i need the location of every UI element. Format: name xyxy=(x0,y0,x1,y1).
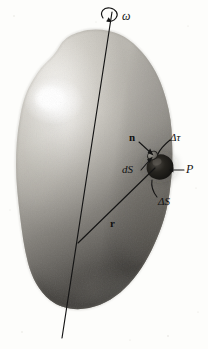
delta-S-label: ΔS xyxy=(158,196,170,207)
omega-label: ω xyxy=(122,10,130,22)
angular-velocity-curl-arrow xyxy=(102,8,118,22)
normal-vector-label: n xyxy=(129,132,135,143)
delta-tau-volume-element xyxy=(138,148,182,186)
position-vector-label: r xyxy=(110,218,115,229)
dS-label: dS xyxy=(122,164,133,175)
rotating-rigid-body-figure xyxy=(0,0,208,349)
point-p-label: P xyxy=(186,163,193,175)
delta-tau-label: Δτ xyxy=(170,132,180,143)
